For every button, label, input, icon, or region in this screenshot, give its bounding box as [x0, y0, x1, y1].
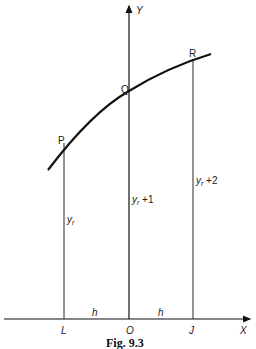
foot-l-label: L [61, 325, 67, 336]
spacing-left-label: h [92, 307, 98, 318]
foot-o-label: O [126, 325, 134, 336]
y-axis-label: Y [136, 5, 144, 16]
point-p-label: P [58, 135, 65, 146]
spacing-right-label: h [158, 307, 164, 318]
ordinate-middle-label: yr +1 [131, 194, 154, 206]
ordinate-left-label: yr [66, 214, 75, 226]
point-q-label: Q [121, 84, 129, 95]
ordinate-right-label: yr +2 [195, 175, 218, 187]
figure-caption: Fig. 9.3 [106, 336, 144, 349]
figure-diagram: Y X P Q R yr yr +1 yr +2 h h L O J Fig. … [0, 0, 256, 349]
x-axis-label: X [239, 325, 247, 336]
foot-j-label: J [188, 325, 195, 336]
point-r-label: R [189, 48, 196, 59]
